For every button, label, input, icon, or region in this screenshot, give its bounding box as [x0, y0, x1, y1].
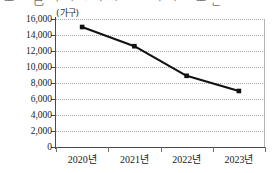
series-line [82, 27, 239, 91]
data-point-marker [237, 89, 242, 94]
data-point-marker [184, 74, 189, 79]
line-chart-figure: (가구) 16,00014,00012,00010,0008,0006,0004… [0, 0, 279, 173]
data-series [0, 0, 279, 173]
data-point-marker [80, 25, 85, 30]
data-point-marker [132, 44, 137, 49]
